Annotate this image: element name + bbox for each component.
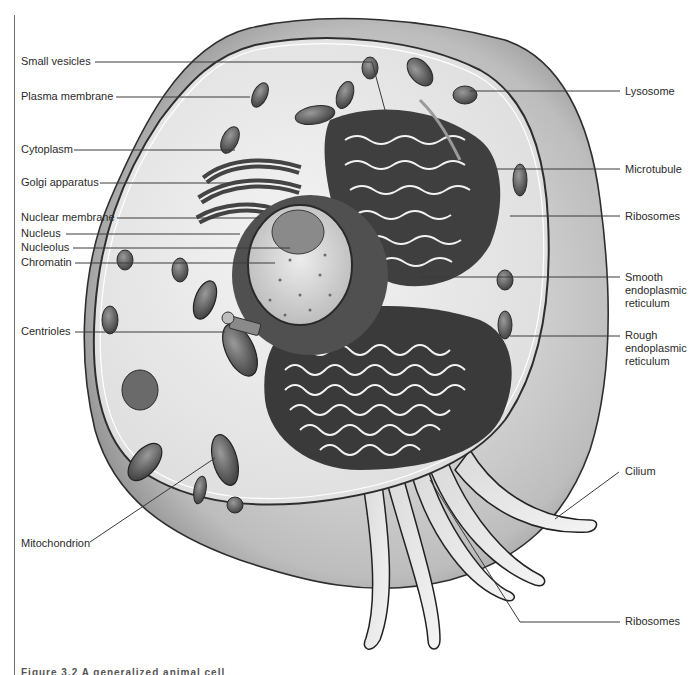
label-cilium: Cilium [625,465,656,478]
label-nuclear-membrane: Nuclear membrane [21,211,115,224]
label-smooth-er: Smooth endoplasmic reticulum [625,271,698,310]
label-small-vesicles: Small vesicles [21,55,91,68]
nucleolus [272,210,324,254]
label-golgi-apparatus: Golgi apparatus [21,176,99,189]
label-chromatin: Chromatin [21,256,72,269]
lysosome [453,86,477,104]
label-rough-er: Rough endoplasmic reticulum [625,329,698,368]
figure-caption-partial: Figure 3.2 A generalized animal cell [21,667,225,675]
label-cytoplasm: Cytoplasm [21,143,73,156]
label-microtubule: Microtubule [625,163,682,176]
label-plasma-membrane: Plasma membrane [21,90,113,103]
label-nucleus: Nucleus [21,227,61,240]
label-centrioles: Centrioles [21,325,71,338]
label-ribosomes-bottom: Ribosomes [625,615,680,628]
label-lysosome: Lysosome [625,85,675,98]
label-nucleolus: Nucleolus [21,241,69,254]
label-ribosomes-top: Ribosomes [625,210,680,223]
label-mitochondrion: Mitochondrion [21,537,90,550]
